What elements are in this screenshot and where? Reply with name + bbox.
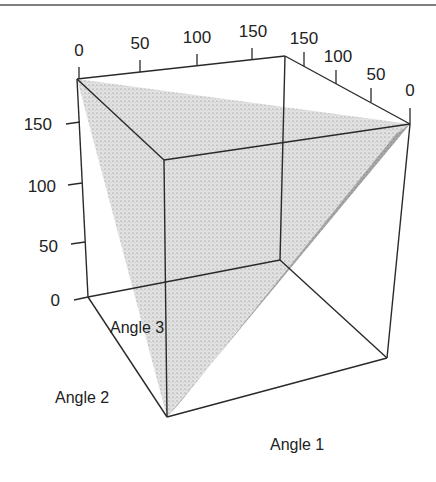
tick-top-left-100: 100 [183,28,211,47]
tick-top-left-0: 0 [74,41,83,60]
top-left-axis: 0 50 100 150 [74,22,267,79]
axis-title-angle2: Angle 2 [55,389,109,406]
tick-left-50: 50 [39,237,58,256]
tick-top-left-150: 150 [239,22,267,41]
tick-left-100: 100 [28,177,56,196]
tick-top-right-0: 0 [405,81,414,100]
tick-top-right-100: 100 [324,47,352,66]
tick-top-left-50: 50 [131,34,150,53]
left-axis: 150 100 50 0 [24,115,88,310]
axis-title-angle3: Angle 3 [110,319,164,336]
axis-title-angle1: Angle 1 [270,436,324,453]
tick-top-right-150: 150 [290,29,318,48]
3d-angle-plot: 0 50 100 150 150 100 50 0 150 100 50 0 A… [0,0,436,482]
top-right-axis: 150 100 50 0 [290,29,415,124]
angle-sum-surface [77,79,410,417]
tick-left-0: 0 [51,291,60,310]
tick-top-right-50: 50 [367,65,386,84]
tick-left-150: 150 [24,115,52,134]
